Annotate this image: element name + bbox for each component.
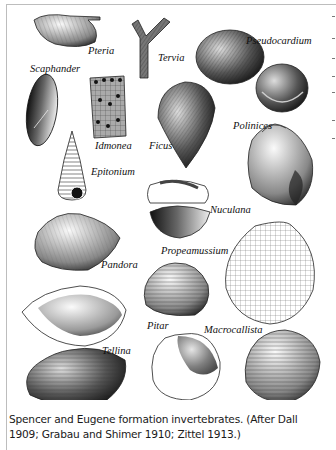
propeamussium-shell: [226, 222, 315, 324]
figure-caption: Spencer and Eugene formation invertebrat…: [9, 412, 329, 442]
tellina-shell-interior: [22, 286, 126, 346]
tellina-shell-exterior: [27, 348, 126, 400]
idmonea-fossil: [90, 76, 126, 138]
label-pitar: Pitar: [147, 320, 169, 331]
label-epitonium: Epitonium: [91, 166, 135, 177]
macrocallista-shell-exterior: [245, 330, 320, 400]
label-scaphander: Scaphander: [30, 63, 80, 74]
label-pteria: Pteria: [88, 45, 114, 56]
caption-line-2: 1909; Grabau and Shimer 1910; Zittel 191…: [9, 427, 329, 442]
pseudocardium-shell-2: [256, 64, 308, 112]
tervia-fossil: [132, 18, 170, 78]
ficus-shell: [158, 82, 215, 168]
label-ficus: Ficus: [149, 140, 172, 151]
label-nuculana: Nuculana: [210, 204, 251, 215]
label-pandora: Pandora: [101, 259, 138, 270]
macrocallista-shell-interior: [152, 334, 220, 400]
caption-line-1: Spencer and Eugene formation invertebrat…: [9, 412, 329, 427]
epitonium-shell: [58, 131, 86, 200]
pitar-shell: [144, 263, 208, 316]
label-polinices: Polinices: [233, 120, 272, 131]
label-idmonea: Idmonea: [95, 140, 132, 151]
label-propeamussium: Propeamussium: [161, 245, 228, 256]
polinices-shell: [248, 124, 313, 205]
label-pseudocardium: Pseudocardium: [246, 35, 312, 46]
pteria-shell: [34, 15, 100, 47]
label-tervia: Tervia: [158, 52, 184, 63]
nuculana-shell: [148, 180, 211, 238]
label-macrocallista: Macrocallista: [204, 324, 263, 335]
label-tellina: Tellina: [102, 345, 131, 356]
scaphander-shell: [22, 72, 62, 147]
